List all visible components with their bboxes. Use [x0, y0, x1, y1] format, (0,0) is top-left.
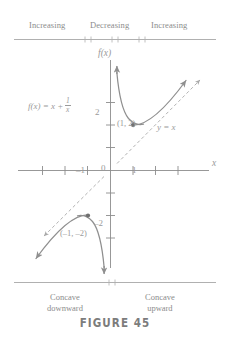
annotation-point-minimum: (1, 2) — [117, 118, 135, 128]
formula-lhs: f(x) = x + — [28, 101, 63, 111]
x-tick-label-1: 1 — [132, 165, 137, 175]
formula-denominator: x — [65, 106, 70, 114]
coordinate-axes — [18, 60, 209, 268]
concavity-right-line1: Concave — [145, 292, 175, 303]
concavity-right-line2: upward — [145, 303, 175, 314]
y-tick-label-neg-2: –2 — [94, 218, 103, 228]
y-tick-label-2: 2 — [95, 107, 100, 117]
figure-caption: FIGURE 45 — [0, 316, 230, 330]
concavity-label-left: Concave downward — [47, 292, 83, 315]
x-tick-label-neg-1: –1 — [76, 165, 85, 175]
figure-container: Increasing Decreasing Increasing — [0, 0, 230, 337]
monotonicity-number-line — [14, 37, 216, 43]
concavity-number-line — [14, 280, 216, 286]
formula-numerator: 1 — [65, 97, 71, 105]
point-marker-maximum — [86, 213, 90, 217]
annotation-point-maximum: (–1, –2) — [60, 228, 87, 238]
annotation-asymptote: y = x — [157, 122, 176, 132]
concavity-left-line1: Concave — [47, 292, 83, 303]
y-axis-label: f(x) — [98, 48, 111, 58]
concavity-label-right: Concave upward — [145, 292, 175, 315]
function-formula-label: f(x) = x + 1 x — [28, 97, 71, 114]
formula-fraction: 1 x — [65, 97, 71, 114]
concavity-left-line2: downward — [47, 303, 83, 314]
figure-graphics — [0, 0, 230, 337]
curve-right-branch — [117, 66, 186, 125]
x-axis-label: x — [212, 158, 216, 168]
origin-label: 0 — [101, 163, 106, 173]
